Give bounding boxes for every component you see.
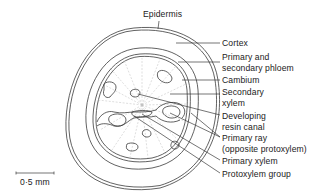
- label-secondary-xylem: Secondary xylem: [222, 87, 264, 108]
- label-phloem-line2: secondary phloem: [222, 63, 294, 74]
- label-primary-ray: Primary ray (opposite protoxylem): [222, 133, 307, 154]
- label-resin-canal-line1: Developing: [222, 111, 266, 122]
- primary-ray-band: [97, 102, 185, 122]
- cambium-outline: [93, 54, 190, 162]
- leader-resin-canal: [138, 94, 220, 115]
- scale-bar-label: 0·5 mm: [20, 177, 50, 188]
- label-phloem: Primary and secondary phloem: [222, 52, 294, 73]
- epidermis-outline: [66, 27, 220, 189]
- cambium-inner-outline: [96, 56, 187, 159]
- label-resin-canal: Developing resin canal: [222, 111, 266, 132]
- resin-canal-left: [109, 114, 126, 126]
- scale-bar: [16, 172, 54, 175]
- label-epidermis: Epidermis: [143, 9, 182, 20]
- label-phloem-line1: Primary and: [222, 52, 294, 63]
- resin-canal-2: [157, 70, 172, 82]
- resin-canal-4: [142, 130, 151, 137]
- stem-section-diagram: [0, 0, 325, 196]
- label-secondary-xylem-line1: Secondary: [222, 87, 264, 98]
- leader-lines: [134, 21, 220, 173]
- label-primary-ray-line2: (opposite protoxylem): [222, 144, 307, 155]
- label-protoxylem-group: Protoxylem group: [222, 169, 291, 180]
- label-cambium: Cambium: [222, 75, 259, 86]
- resin-canal-1: [103, 82, 116, 98]
- label-primary-xylem: Primary xylem: [222, 156, 278, 167]
- label-secondary-xylem-line2: xylem: [222, 98, 264, 109]
- label-primary-ray-line1: Primary ray: [222, 133, 307, 144]
- label-resin-canal-line2: resin canal: [222, 122, 266, 133]
- leader-protoxylem-group: [134, 116, 220, 173]
- label-cortex: Cortex: [222, 38, 248, 49]
